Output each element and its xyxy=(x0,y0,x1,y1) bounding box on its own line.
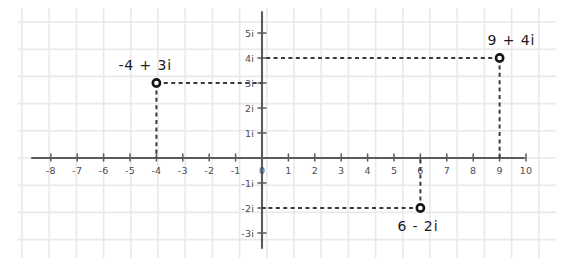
y-tick-label: 4i xyxy=(245,53,254,64)
y-tick-label: 2i xyxy=(245,103,254,114)
x-tick-label: 2 xyxy=(312,165,318,176)
x-tick-label: 10 xyxy=(520,165,533,176)
grid-lines xyxy=(18,8,556,258)
x-tick-label: -3 xyxy=(178,165,188,176)
x-tick-label: -1 xyxy=(231,165,241,176)
y-axis-tick-labels: 5i4i3i2i1i-1i-2i-3i xyxy=(241,28,254,239)
y-tick-label: -1i xyxy=(241,178,254,189)
y-tick-label: 3i xyxy=(245,78,254,89)
data-point-label: 9 + 4i xyxy=(488,32,536,48)
x-tick-label: -4 xyxy=(151,165,161,176)
x-tick-label: -5 xyxy=(125,165,135,176)
plot-canvas: -8-7-6-5-4-3-2-1012345678910 5i4i3i2i1i-… xyxy=(0,0,570,267)
x-tick-label: -8 xyxy=(46,165,56,176)
y-tick-label: 1i xyxy=(245,128,254,139)
data-point-marker[interactable] xyxy=(417,204,424,211)
point-markers xyxy=(153,54,503,211)
x-tick-label: -2 xyxy=(204,165,214,176)
x-tick-label: 5 xyxy=(391,165,397,176)
complex-plane-chart: -8-7-6-5-4-3-2-1012345678910 5i4i3i2i1i-… xyxy=(0,0,570,267)
y-tick-label: 5i xyxy=(245,28,254,39)
x-tick-label: 6 xyxy=(417,165,423,176)
x-tick-label: -7 xyxy=(72,165,82,176)
y-tick-label: -2i xyxy=(241,203,254,214)
point-labels: -4 + 3i9 + 4i6 - 2i xyxy=(118,32,535,234)
data-point-label: -4 + 3i xyxy=(118,57,172,73)
x-axis-tick-labels: -8-7-6-5-4-3-2-1012345678910 xyxy=(46,165,532,176)
x-tick-label: -6 xyxy=(99,165,109,176)
y-tick-label: -3i xyxy=(241,228,254,239)
x-tick-label: 4 xyxy=(364,165,370,176)
data-point-marker[interactable] xyxy=(153,79,160,86)
x-tick-label: 0 xyxy=(259,165,265,176)
data-point-marker[interactable] xyxy=(496,54,503,61)
x-tick-label: 3 xyxy=(338,165,344,176)
x-tick-label: 1 xyxy=(285,165,291,176)
x-tick-label: 7 xyxy=(444,165,450,176)
x-tick-label: 8 xyxy=(470,165,476,176)
data-point-label: 6 - 2i xyxy=(397,218,438,234)
x-tick-label: 9 xyxy=(496,165,502,176)
